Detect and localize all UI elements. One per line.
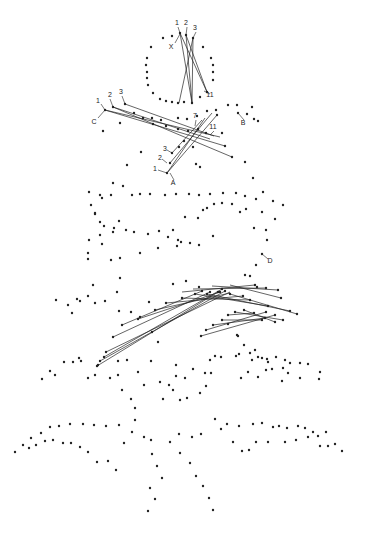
pin-dot <box>198 244 200 246</box>
pin-dot <box>147 233 149 235</box>
pin-dot <box>297 425 299 427</box>
pin-dot <box>104 300 106 302</box>
pin-dot <box>130 398 132 400</box>
pin-dot <box>272 426 274 428</box>
pin-dot <box>14 451 16 453</box>
pin-dot <box>165 302 167 304</box>
pin-dot <box>243 344 245 346</box>
pin-dot <box>133 231 135 233</box>
pin-dot <box>165 100 167 102</box>
pin-dot <box>79 300 81 302</box>
label-1-A: 1 <box>153 165 157 172</box>
thread-line <box>172 120 202 153</box>
pin-dot <box>212 64 214 66</box>
pin-dot <box>169 162 171 164</box>
pin-dot <box>145 64 147 66</box>
pin-dot <box>265 311 267 313</box>
pin-dot <box>282 367 284 369</box>
pin-dot <box>227 323 229 325</box>
pin-dot <box>105 425 107 427</box>
pin-dot <box>134 407 136 409</box>
label-3-C: 3 <box>119 88 123 95</box>
pin-dot <box>171 35 173 37</box>
pin-dot <box>184 216 186 218</box>
pin-dot <box>107 460 109 462</box>
pin-dot <box>177 239 179 241</box>
pin-dot <box>67 304 69 306</box>
pin-dot <box>154 309 156 311</box>
pin-dot <box>178 433 180 435</box>
pin-dot <box>334 443 336 445</box>
thread-line <box>113 107 232 157</box>
pin-dot <box>210 372 212 374</box>
pin-dot <box>158 230 160 232</box>
pin-dot <box>185 34 187 36</box>
thread-line <box>105 110 225 146</box>
pin-dot <box>118 310 120 312</box>
pin-dot <box>252 177 254 179</box>
pin-dot <box>118 220 120 222</box>
thread-line <box>213 318 265 325</box>
pin-dot <box>272 200 274 202</box>
pin-dot <box>179 32 181 34</box>
pin-dot <box>35 444 37 446</box>
pin-dot <box>257 376 259 378</box>
pin-dot <box>271 368 273 370</box>
pin-dot <box>177 117 179 119</box>
pin-dot <box>131 194 133 196</box>
pin-dot <box>254 284 256 286</box>
pin-dot <box>256 286 258 288</box>
pin-dot <box>149 487 151 489</box>
pin-dot <box>175 193 177 195</box>
pin-dot <box>62 442 64 444</box>
pin-dot <box>238 425 240 427</box>
pin-dot <box>312 431 314 433</box>
pin-dot <box>171 101 173 103</box>
pin-dot <box>238 353 240 355</box>
label-D: D <box>267 257 272 264</box>
pin-dot <box>112 336 114 338</box>
pin-dot <box>151 453 153 455</box>
pin-dot <box>30 437 32 439</box>
pin-dot <box>265 287 267 289</box>
pin-dot <box>113 227 115 229</box>
thread-lines <box>97 33 297 366</box>
pin-dot <box>142 117 144 119</box>
pin-dot <box>307 436 309 438</box>
pin-dot <box>255 441 257 443</box>
pin-dot <box>264 317 266 319</box>
leader-line <box>175 34 180 43</box>
pin-dot <box>172 229 174 231</box>
pin-dot <box>224 145 226 147</box>
pin-dot <box>274 321 276 323</box>
pin-dot <box>249 352 251 354</box>
pin-dot <box>200 335 202 337</box>
pin-dot <box>199 166 201 168</box>
pin-dot <box>140 151 142 153</box>
pin-dot <box>28 447 30 449</box>
pin-dot <box>150 46 152 48</box>
label-11-mid: 11 <box>209 123 216 130</box>
pin-dot <box>205 329 207 331</box>
pin-dot <box>40 432 42 434</box>
pin-dot <box>156 465 158 467</box>
pin-dot <box>267 305 269 307</box>
pin-dot <box>112 231 114 233</box>
pin-dot <box>94 302 96 304</box>
pin-dot <box>41 378 43 380</box>
pin-dot <box>226 423 228 425</box>
pin-dot <box>172 283 174 285</box>
pin-dot <box>117 360 119 362</box>
pin-dot <box>80 360 82 362</box>
pin-dot <box>137 318 139 320</box>
pin-dot <box>189 462 191 464</box>
pin-dot <box>104 109 106 111</box>
pin-dot <box>186 397 188 399</box>
pin-dot <box>205 385 207 387</box>
pin-dot <box>167 236 169 238</box>
pin-dot <box>318 378 320 380</box>
pin-dot <box>186 118 188 120</box>
pin-dot <box>188 193 190 195</box>
pin-dot <box>255 198 257 200</box>
pin-dot <box>103 356 105 358</box>
